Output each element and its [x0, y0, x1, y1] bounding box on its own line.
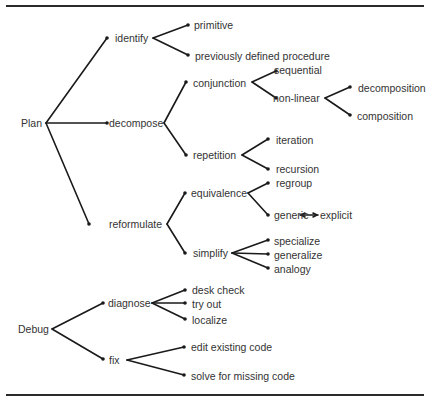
node-specialize: specialize: [274, 235, 320, 247]
node-debug: Debug: [18, 323, 49, 335]
node-repetition: repetition: [193, 149, 236, 161]
node-plan: Plan: [21, 117, 42, 129]
node-try-out: try out: [192, 298, 221, 310]
node-primitive: primitive: [194, 19, 233, 31]
node-desk-check: desk check: [192, 284, 245, 296]
node-equivalence: equivalence: [191, 187, 247, 199]
node-fix: fix: [109, 354, 120, 366]
node-conjunction: conjunction: [193, 77, 246, 89]
node-decomposition: decomposition: [358, 82, 426, 94]
node-diagnose: diagnose: [108, 297, 151, 309]
node-sequential: sequential: [274, 64, 322, 76]
node-generalize: generalize: [274, 249, 322, 261]
node-solve-for-missing-code: solve for missing code: [191, 370, 295, 382]
node-decompose: decompose: [109, 117, 163, 129]
bottom-rule: [6, 394, 424, 396]
node-edit-existing-code: edit existing code: [191, 341, 272, 353]
node-non-linear: non-linear: [273, 92, 320, 104]
node-simplify: simplify: [193, 247, 228, 259]
node-reformulate: reformulate: [109, 218, 162, 230]
node-iteration: iteration: [276, 134, 313, 146]
node-composition: composition: [357, 110, 413, 122]
node-recursion: recursion: [276, 163, 319, 175]
node-regroup: regroup: [276, 177, 312, 189]
node-previously-defined-procedure: previously defined procedure: [195, 50, 330, 62]
node-generic: generic: [274, 209, 308, 221]
node-localize: localize: [192, 314, 227, 326]
node-analogy: analogy: [274, 263, 311, 275]
node-explicit: explicit: [320, 209, 352, 221]
node-identify: identify: [115, 32, 148, 44]
